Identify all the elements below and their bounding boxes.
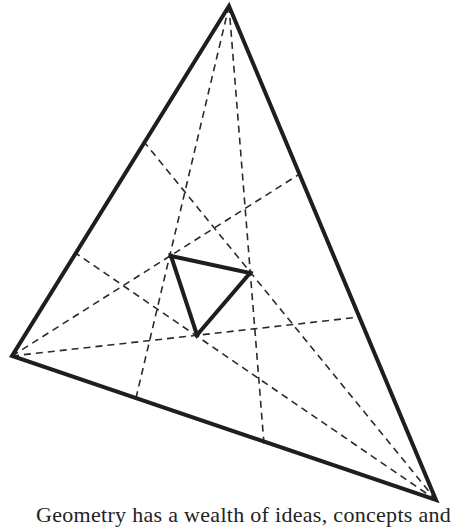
trisector-line-c-1 — [145, 143, 436, 500]
trisector-line-c-2 — [77, 254, 436, 500]
inner-vertex-3 — [195, 333, 200, 338]
trisector-line-a-2 — [229, 6, 264, 444]
inner-vertex-2 — [248, 271, 253, 276]
outer-triangle — [12, 6, 436, 500]
inner-morley-triangle — [171, 256, 250, 335]
trisector-line-a-1 — [136, 6, 229, 398]
inner-vertex-1 — [169, 254, 174, 259]
caption-text: Geometry has a wealth of ideas, concepts… — [36, 504, 451, 526]
